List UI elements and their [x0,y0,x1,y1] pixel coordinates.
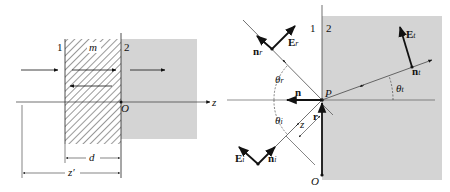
normal-label: n [295,86,301,98]
region-label-2: 2 [326,22,332,34]
layer-label-m: m [89,41,97,53]
medium-2-region [121,39,197,139]
incident-field-label: Ei [235,152,245,164]
incident-wavefront [286,136,315,165]
dimension-z-prime-label: z′ [67,166,75,178]
layer-m-hatched [65,39,121,144]
reflected-field-label: Er [288,36,299,48]
medium-2-region [322,16,442,180]
reflected-direction-label: nr [253,45,263,57]
region-label-1: 1 [57,41,63,53]
dimension-d-label: d [89,151,95,163]
theta-i-label: θi [275,114,283,126]
position-vector-label: r [313,110,318,122]
origin-label: O [311,175,319,187]
region-label-1: 1 [310,22,316,34]
diagram-canvas: m 1 2 z O d z′ 1 2 nr Er [0,0,450,192]
incident-direction-label: ni [268,152,276,164]
z-axis-label: z [211,96,217,108]
left-figure: m 1 2 z O d z′ [16,33,217,178]
region-label-2: 2 [124,41,130,53]
reflected-ray-mid-arrow [283,60,286,63]
origin-point [320,173,323,176]
incident-ray-mid-arrow [296,123,299,126]
distance-z-label: z [299,118,305,130]
origin-label: O [121,102,129,114]
right-figure: 1 2 nr Er ni Ei z θr θi n P [227,5,442,187]
point-P-label: P [324,87,332,99]
theta-r-label: θr [275,73,284,85]
